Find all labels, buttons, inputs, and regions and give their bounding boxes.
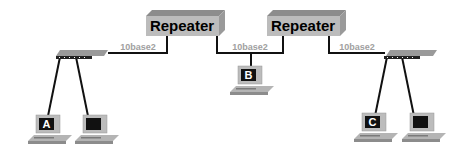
computer-c-label: C [369, 116, 377, 128]
computer-b: B [230, 66, 274, 95]
computer-c: C [354, 113, 398, 142]
repeater-1: Repeater [146, 10, 225, 36]
computer-a: A [28, 115, 72, 144]
segment-label-left: 10base2 [120, 42, 156, 52]
computer-unlabeled-1 [75, 115, 119, 144]
computer-b-label: B [245, 69, 253, 81]
segment-label-right: 10base2 [339, 42, 375, 52]
computer-unlabeled-2 [402, 113, 446, 142]
cable-drop-computer5 [402, 57, 414, 116]
hub-right [384, 50, 437, 59]
repeater-2-label: Repeater [271, 17, 335, 34]
network-diagram: Repeater Repeater 10base2 10base2 10base… [0, 0, 459, 159]
cable-drop-c [375, 57, 387, 116]
cable-drop-a [48, 57, 60, 116]
cable-drop-computer2 [76, 57, 88, 116]
repeater-2: Repeater [267, 10, 346, 36]
repeater-1-label: Repeater [150, 17, 214, 34]
hub-left [56, 50, 108, 59]
computer-a-label: A [43, 118, 51, 130]
segment-label-middle: 10base2 [232, 42, 268, 52]
